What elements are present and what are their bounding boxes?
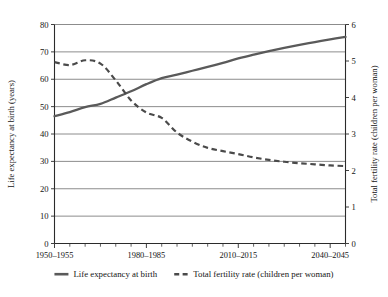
y-tick-label-left: 50	[40, 102, 49, 112]
axis-ticks	[51, 25, 349, 249]
y-tick-label-right: 6	[352, 20, 357, 30]
data-series	[55, 37, 346, 166]
y-tick-label-right: 3	[352, 129, 356, 139]
y-tick-label-right: 0	[352, 239, 356, 249]
y-tick-label-right: 2	[352, 166, 356, 176]
y-tick-label-left: 40	[40, 129, 49, 139]
series-line-life-expectancy	[55, 37, 346, 116]
legend-label-fertility-rate: Total fertility rate (children per woman…	[193, 269, 333, 279]
x-tick-label: 2040–2045	[311, 251, 349, 260]
chart-figure: 0102030405060708001234561950–19551980–19…	[0, 0, 388, 297]
gridlines	[55, 25, 346, 217]
y-tick-label-left: 60	[40, 74, 49, 84]
y-tick-label-left: 20	[40, 184, 49, 194]
legend-label-life-expectancy: Life expectancy at birth	[73, 269, 157, 279]
x-tick-label: 1980–1985	[128, 251, 166, 260]
series-line-fertility-rate	[55, 60, 346, 166]
chart-legend: Life expectancy at birthTotal fertility …	[54, 269, 333, 279]
y-axis-title-left: Life expectancy at birth (years)	[6, 80, 16, 188]
y-tick-label-left: 80	[40, 20, 49, 30]
y-tick-label-left: 10	[40, 211, 49, 221]
dual-axis-line-chart: 0102030405060708001234561950–19551980–19…	[0, 0, 388, 297]
y-tick-label-right: 1	[352, 202, 356, 212]
y-axis-title-right: Total fertility rate (children per woman…	[369, 65, 379, 202]
axis-tick-labels: 0102030405060708001234561950–19551980–19…	[36, 20, 357, 260]
y-tick-label-left: 70	[40, 47, 49, 57]
x-tick-label: 1950–1955	[36, 251, 74, 260]
y-tick-label-left: 30	[40, 156, 49, 166]
x-tick-label: 2010–2015	[219, 251, 257, 260]
y-tick-label-right: 5	[352, 56, 356, 66]
y-tick-label-right: 4	[352, 93, 357, 103]
y-tick-label-left: 0	[44, 239, 48, 249]
